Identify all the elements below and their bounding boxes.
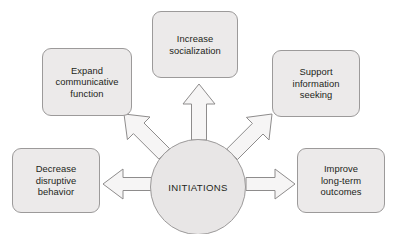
node-label: Improve long-term outcomes [320, 163, 361, 198]
node-decrease-disruptive-behavior: Decrease disruptive behavior [12, 148, 100, 213]
node-expand-communicative-function: Expand communicative function [42, 48, 132, 116]
arrow-right-icon [246, 169, 295, 199]
arrow-up-right-icon [227, 114, 272, 160]
arrow-up-left-icon [124, 114, 170, 159]
node-improve-long-term-outcomes: Improve long-term outcomes [297, 148, 385, 213]
arrow-up-icon [183, 84, 215, 140]
arrow-left-icon [103, 169, 152, 199]
node-label: Support information seeking [293, 66, 340, 101]
node-label: Decrease disruptive behavior [36, 163, 77, 198]
diagram-canvas: INITIATIONS Increase socialization Expan… [0, 0, 393, 234]
hub-initiations: INITIATIONS [150, 139, 246, 234]
node-label: Increase socialization [169, 33, 221, 56]
hub-label: INITIATIONS [168, 182, 228, 193]
node-support-information-seeking: Support information seeking [272, 50, 360, 117]
node-increase-socialization: Increase socialization [152, 11, 238, 78]
node-label: Expand communicative function [55, 65, 118, 100]
